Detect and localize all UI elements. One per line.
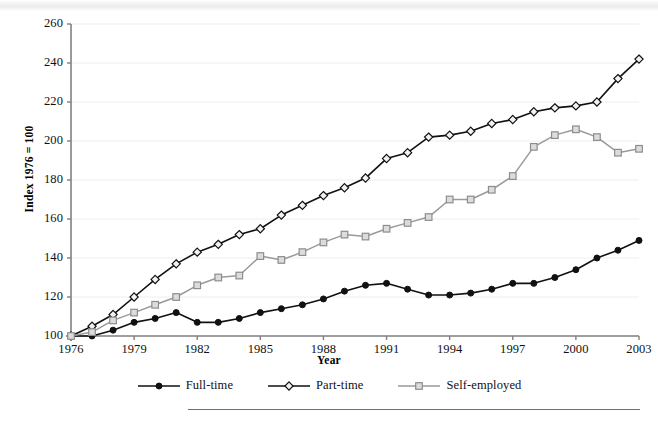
data-point: [152, 315, 158, 321]
data-point: [110, 317, 117, 324]
data-point: [467, 127, 475, 135]
data-point: [573, 126, 580, 133]
data-point: [594, 134, 601, 141]
data-point: [572, 102, 580, 110]
data-point: [156, 383, 162, 389]
data-point: [488, 119, 496, 127]
data-point: [341, 288, 347, 294]
data-point: [277, 211, 285, 219]
data-point: [530, 108, 538, 116]
legend-label: Full-time: [186, 378, 233, 393]
data-point: [215, 274, 222, 281]
data-point: [552, 132, 559, 139]
data-point: [285, 381, 293, 389]
series-self-employed: [68, 126, 643, 339]
data-point: [320, 296, 326, 302]
data-point: [362, 233, 369, 240]
legend-item-self-employed[interactable]: Self-employed: [397, 378, 521, 393]
data-point: [552, 275, 558, 281]
data-point: [194, 319, 200, 325]
data-point: [193, 248, 201, 256]
data-point: [531, 280, 537, 286]
footer-rule: [188, 409, 640, 410]
series-full-time: [68, 237, 642, 339]
data-point: [425, 214, 432, 221]
data-point: [173, 310, 179, 316]
data-point: [615, 149, 622, 156]
data-point: [573, 267, 579, 273]
data-point: [468, 290, 474, 296]
legend-item-part-time[interactable]: Part-time: [267, 378, 363, 393]
data-point: [636, 237, 642, 243]
data-point: [405, 286, 411, 292]
data-point: [215, 319, 221, 325]
data-point: [447, 292, 453, 298]
legend-swatch-open-diamond-icon: [267, 379, 311, 393]
data-point: [510, 280, 516, 286]
data-point: [320, 239, 327, 246]
series-line: [71, 59, 639, 336]
data-point: [235, 231, 243, 239]
data-point: [404, 220, 411, 227]
data-point: [194, 282, 201, 289]
data-point: [256, 225, 264, 233]
data-point: [236, 315, 242, 321]
data-point: [489, 286, 495, 292]
plot-area: [0, 0, 658, 421]
data-point: [426, 292, 432, 298]
data-point: [467, 196, 474, 203]
data-point: [341, 231, 348, 238]
data-point: [446, 131, 454, 139]
legend-label: Part-time: [316, 378, 363, 393]
data-point: [89, 329, 96, 336]
axis-ticks: [67, 24, 639, 340]
chart-legend: Full-timePart-timeSelf-employed: [0, 378, 658, 393]
data-point: [214, 240, 222, 248]
data-point: [152, 302, 159, 309]
data-point: [383, 225, 390, 232]
data-point: [340, 184, 348, 192]
data-point: [551, 104, 559, 112]
data-point: [636, 146, 643, 153]
data-point: [131, 319, 137, 325]
data-point: [299, 249, 306, 256]
gridlines: [71, 24, 639, 336]
data-point: [68, 333, 75, 340]
data-point: [384, 280, 390, 286]
data-point: [615, 247, 621, 253]
line-chart-figure: Index 1976 = 100 Year 100120140160180200…: [0, 0, 658, 421]
data-point: [299, 302, 305, 308]
data-point: [416, 382, 423, 389]
legend-swatch-filled-circle-icon: [137, 379, 181, 393]
data-point: [488, 186, 495, 193]
legend-item-full-time[interactable]: Full-time: [137, 378, 233, 393]
legend-swatch-open-square-icon: [397, 379, 441, 393]
data-point: [257, 310, 263, 316]
legend-label: Self-employed: [446, 378, 521, 393]
data-point: [110, 327, 116, 333]
data-point: [298, 201, 306, 209]
data-point: [594, 255, 600, 261]
data-point: [509, 173, 516, 180]
data-point: [363, 282, 369, 288]
data-point: [278, 257, 285, 264]
data-point: [446, 196, 453, 203]
data-point: [257, 253, 264, 260]
data-point: [236, 272, 243, 279]
data-point: [131, 309, 138, 316]
data-point: [531, 144, 538, 151]
data-point: [173, 294, 180, 301]
data-point: [278, 306, 284, 312]
data-point: [319, 192, 327, 200]
data-point: [509, 115, 517, 123]
